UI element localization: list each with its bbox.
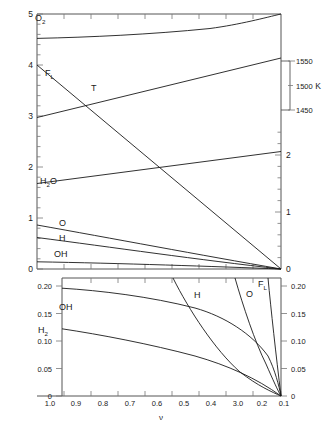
label-h2-lower: H2 [38,325,49,337]
x-tick-0-7: 0.7 [125,399,135,408]
temp-tick-1550: 1550 [296,57,313,66]
x-tick-0-1: 0.1 [279,399,289,408]
temp-tick-1500: 1500 [296,82,313,91]
upper-left-tick-3: 3 [28,111,33,121]
temp-unit-label: K [315,81,321,91]
lower-right-tick-015: 0.15 [291,310,306,319]
upper-right-major-ticks [275,155,281,269]
label-h-upper: H [59,233,66,243]
x-tick-0-9: 0.9 [71,399,81,408]
curve-h2-lower [62,329,281,396]
lower-right-major-ticks [281,286,287,396]
lower-left-tick-015: 0.15 [37,310,52,319]
upper-right-tick-2: 2 [286,150,291,160]
label-oh-lower: OH [59,302,73,312]
lower-top-ticks [91,278,253,283]
upper-right-tick-0: 0 [286,264,291,274]
x-tick-0-4: 0.4 [206,399,216,408]
upper-right-minor-ticks [278,132,282,257]
label-t: T [91,83,97,93]
curve-oh-lower [62,288,281,396]
lower-panel: 0.20 0.15 0.10 0.05 0 0.20 0.15 0.10 0.0… [37,278,306,422]
x-tick-0-3: 3.0 [233,399,243,408]
label-h-lower: H [194,290,201,300]
label-fl-upper: FL [45,68,55,80]
curve-o2 [37,14,281,38]
upper-left-tick-0: 0 [28,264,33,274]
upper-left-minor-ticks [37,24,41,259]
curve-h2o [37,152,281,184]
chart-figure: 5 4 3 2 1 0 [0,0,325,426]
curve-t [37,58,281,118]
x-tick-0-6: 0.6 [152,399,162,408]
label-o-lower: O [246,289,253,299]
x-tick-1-0: 1.0 [45,399,55,408]
label-o-upper: O [59,218,66,228]
chart-svg: 5 4 3 2 1 0 [0,0,325,426]
lower-right-tick-020: 0.20 [291,282,306,291]
label-o2: O2 [35,13,46,25]
x-axis-label: ν [159,413,163,422]
upper-left-tick-5: 5 [28,9,33,19]
upper-top-ticks [64,14,253,19]
temp-tick-1450: 1450 [296,106,313,115]
lower-left-tick-020: 0.20 [37,282,52,291]
upper-left-tick-4: 4 [28,60,33,70]
temperature-axis [281,61,295,110]
curve-fl-upper [37,65,281,269]
x-tick-0-5: 0.5 [179,399,189,408]
lower-right-tick-010: 0.10 [291,337,306,346]
upper-left-tick-2: 2 [28,162,33,172]
lower-right-tick-005: 0.05 [291,365,306,374]
lower-left-tick-005: 0.05 [37,365,52,374]
label-h2o: H2O [40,176,57,188]
curve-h-upper [37,238,281,270]
upper-panel: 5 4 3 2 1 0 [28,9,321,274]
label-oh-upper: OH [54,249,68,259]
upper-left-major-ticks [37,14,43,269]
curve-fl-lower [268,278,281,396]
curve-h-lower [173,278,281,396]
upper-right-tick-1: 1 [286,207,291,217]
x-tick-0-8: 0.8 [98,399,108,408]
x-tick-0-2: 0.2 [257,399,267,408]
lower-left-tick-010: 0.10 [37,337,52,346]
upper-left-tick-1: 1 [28,213,33,223]
lower-bottom-ticks [64,391,281,396]
lower-right-tick-0: 0 [291,392,295,401]
label-fl-lower: FL [258,279,268,291]
